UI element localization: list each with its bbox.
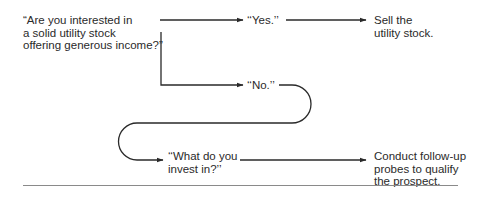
node-question-line-3: offering generous income?”: [23, 39, 163, 52]
node-what-line-1: ‘‘What do you: [168, 150, 237, 163]
node-sell-line-1: Sell the: [374, 14, 433, 27]
node-question-line-1: “Are you interested in: [23, 14, 163, 27]
bottom-divider: [23, 185, 458, 186]
node-what-line-2: invest in?’’: [168, 163, 237, 176]
node-question: “Are you interested in a solid utility s…: [23, 14, 163, 52]
node-conduct-line-1: Conduct follow-up: [374, 150, 466, 163]
node-conduct-line-2: probes to qualify: [374, 163, 466, 176]
node-no-label: ‘‘No.’’: [247, 79, 275, 92]
node-sell-line-2: utility stock.: [374, 27, 433, 40]
node-yes: ‘‘Yes.’’: [247, 14, 279, 27]
node-yes-label: ‘‘Yes.’’: [247, 14, 279, 27]
node-sell: Sell the utility stock.: [374, 14, 433, 39]
node-what: ‘‘What do you invest in?’’: [168, 150, 237, 175]
node-no: ‘‘No.’’: [247, 79, 275, 92]
arrow-question-to-no: [161, 32, 243, 85]
node-conduct: Conduct follow-up probes to qualify the …: [374, 150, 466, 188]
node-question-line-2: a solid utility stock: [23, 27, 163, 40]
arrow-no-to-what: [119, 85, 312, 160]
